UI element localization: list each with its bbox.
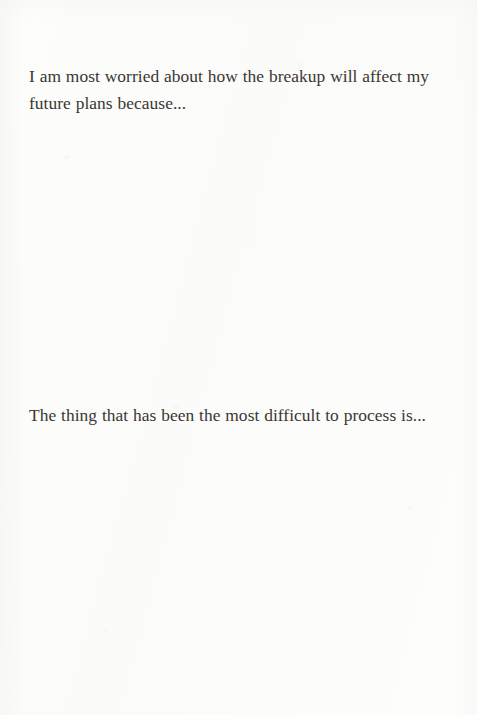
writing-space-1[interactable] bbox=[29, 117, 447, 402]
journal-page: I am most worried about how the breakup … bbox=[0, 0, 477, 715]
journal-prompt-2: The thing that has been the most difficu… bbox=[29, 402, 447, 429]
writing-space-2[interactable] bbox=[29, 428, 447, 683]
journal-prompt-1: I am most worried about how the breakup … bbox=[29, 0, 447, 117]
page-content: I am most worried about how the breakup … bbox=[0, 0, 477, 715]
